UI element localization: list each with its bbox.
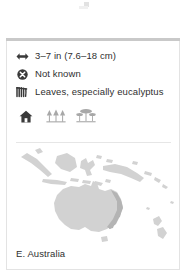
fact-text-diet: Leaves, especially eucalyptus <box>35 86 164 99</box>
fact-text-size: 3–7 in (7.6–18 cm) <box>35 50 116 63</box>
size-arrows-icon <box>15 50 30 63</box>
house-icon <box>15 107 36 123</box>
page-speck <box>84 2 89 7</box>
leaves-icon <box>15 86 30 99</box>
species-info-card: 3–7 in (7.6–18 cm) Not known <box>6 41 180 270</box>
fact-row-size: 3–7 in (7.6–18 cm) <box>15 50 179 63</box>
fact-text-population: Not known <box>35 68 81 81</box>
fact-row-population: Not known <box>15 68 179 81</box>
map-landmasses <box>21 148 174 242</box>
forest-icon <box>45 107 66 123</box>
map-svg <box>7 147 179 245</box>
circle-x-icon <box>15 68 30 81</box>
fact-row-diet: Leaves, especially eucalyptus <box>15 86 179 99</box>
map-caption: E. Australia <box>16 248 65 259</box>
distribution-map <box>7 147 179 245</box>
fact-list: 3–7 in (7.6–18 cm) Not known <box>7 41 179 123</box>
savanna-icon <box>75 107 96 123</box>
habitat-icon-strip <box>15 107 179 123</box>
section-divider <box>16 142 171 143</box>
